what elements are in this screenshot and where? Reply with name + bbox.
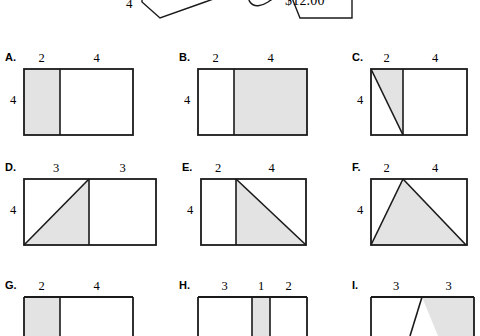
figure-b-shape [197, 68, 309, 137]
figure-d-left-label: 4 [7, 203, 19, 218]
price-tag-icon [288, 0, 352, 18]
figure-f-top-label-2: 4 [403, 161, 467, 176]
figure-a-shape [23, 68, 135, 137]
figure-d: D. 3 3 4 [23, 178, 156, 245]
figure-i: I. 3 3 [370, 296, 475, 336]
figure-a-top-label-2: 4 [60, 51, 133, 66]
figure-e-top-label-1: 2 [200, 161, 236, 176]
figure-c-label: C. [352, 51, 363, 63]
figure-f-left-label: 4 [354, 203, 366, 218]
figure-b-label: B. [179, 51, 190, 63]
figure-f-top-label-1: 2 [370, 161, 403, 176]
figure-c-top-label-2: 4 [403, 51, 467, 66]
figure-b-left-label: 4 [181, 93, 193, 108]
figure-h-top-label-2: 1 [252, 279, 270, 294]
figure-h: H. 3 1 2 [197, 296, 307, 336]
figure-f: F. 2 4 4 [370, 178, 467, 245]
polygon-outline-icon [142, 0, 250, 18]
figure-d-top-label-2: 3 [89, 161, 156, 176]
figure-h-label: H. [179, 279, 190, 291]
figure-h-shape [197, 296, 309, 336]
figure-g-top-label-2: 4 [60, 279, 133, 294]
figure-a-label: A. [5, 51, 16, 63]
figure-b-top-label-2: 4 [234, 51, 307, 66]
figure-g-label: G. [5, 279, 17, 291]
figure-g-top-label-1: 2 [23, 279, 60, 294]
top-dimension-label: 4 [126, 0, 133, 12]
figure-i-top-label-2: 3 [422, 279, 475, 294]
wavy-shape-icon [248, 0, 292, 6]
figure-d-label: D. [5, 161, 16, 173]
figure-b: B. 2 4 4 [197, 68, 307, 135]
figure-e: E. 2 4 4 [200, 178, 307, 245]
figure-c-left-label: 4 [354, 93, 366, 108]
figure-f-shape [370, 178, 469, 247]
figure-a-left-label: 4 [7, 93, 19, 108]
figure-e-top-label-2: 4 [236, 161, 307, 176]
figure-i-label: I. [352, 279, 358, 291]
figure-a: A. 2 4 4 [23, 68, 133, 135]
figure-b-top-label-1: 2 [197, 51, 234, 66]
figure-a-top-label-1: 2 [23, 51, 60, 66]
figure-g: G. 2 4 [23, 296, 133, 336]
figure-e-left-label: 4 [184, 203, 196, 218]
figure-h-top-label-3: 2 [270, 279, 307, 294]
figure-i-top-label-1: 3 [370, 279, 422, 294]
top-partial-figures: $12.00 4 [0, 0, 480, 46]
price-label: $12.00 [285, 0, 325, 9]
figure-h-top-label-1: 3 [197, 279, 252, 294]
figure-i-shape [370, 296, 477, 336]
figure-g-shape [23, 296, 135, 336]
figure-d-top-label-1: 3 [23, 161, 89, 176]
top-partial-svg [0, 0, 480, 46]
figure-e-shape [200, 178, 309, 247]
figure-f-label: F. [352, 161, 361, 173]
figure-c-top-label-1: 2 [370, 51, 403, 66]
figure-e-label: E. [182, 161, 192, 173]
figure-d-shape [23, 178, 158, 247]
figure-c-shape [370, 68, 469, 137]
figure-c: C. 2 4 4 [370, 68, 467, 135]
